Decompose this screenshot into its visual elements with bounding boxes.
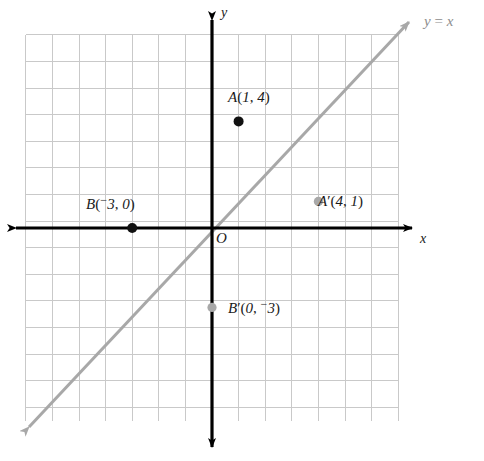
point-a-label: A(1, 4)	[228, 90, 270, 105]
point-a	[234, 116, 244, 126]
point-b	[127, 223, 137, 233]
coordinate-plane-canvas	[0, 0, 484, 461]
origin-label: O	[216, 231, 227, 246]
x-axis-label: x	[420, 232, 426, 246]
y-axis-label: y	[221, 6, 227, 20]
point-b-label: B(−3, 0)	[86, 194, 135, 212]
point-a-prime-label: A′(4, 1)	[318, 194, 363, 209]
point-b-prime	[207, 303, 216, 312]
coordinate-plane-figure: A(1, 4) B(−3, 0) A′(4, 1) B′(0, −3) O x …	[0, 0, 484, 461]
point-b-prime-label: B′(0, −3)	[228, 298, 280, 316]
line-y-equals-x	[29, 22, 409, 427]
line-equation-label: y = x	[424, 14, 453, 29]
